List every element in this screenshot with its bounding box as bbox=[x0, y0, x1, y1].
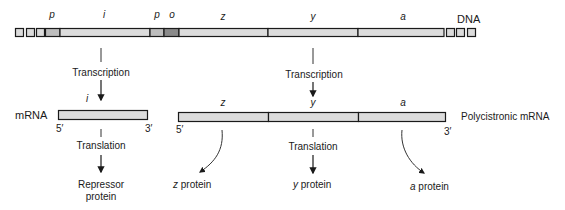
dna-flank-right bbox=[447, 29, 476, 37]
y-protein-suffix: protein bbox=[298, 179, 331, 190]
dna-segment-p2 bbox=[150, 29, 164, 37]
dna-label-i: i bbox=[103, 10, 105, 20]
poly-gene-label-y: y bbox=[311, 98, 316, 108]
polycistronic-mrna-label: Polycistronic mRNA bbox=[461, 112, 549, 122]
poly-3prime: 3′ bbox=[444, 127, 451, 137]
translation-label-left: Translation bbox=[76, 141, 125, 151]
a-protein-suffix: protein bbox=[416, 181, 449, 192]
a-protein-label: a protein bbox=[410, 182, 449, 192]
dna-label-a: a bbox=[400, 12, 406, 22]
z-protein-suffix: protein bbox=[178, 179, 211, 190]
poly-gene-label-a: a bbox=[400, 98, 406, 108]
mrna-left-5prime: 5′ bbox=[56, 124, 63, 134]
dna-bar bbox=[46, 29, 445, 37]
transcription-label-right: Transcription bbox=[285, 70, 342, 80]
mrna-left-3prime: 3′ bbox=[145, 124, 152, 134]
dna-segment-o bbox=[164, 29, 179, 37]
dna-segment-z bbox=[179, 29, 268, 37]
dna-flank-left bbox=[16, 29, 45, 37]
dna-segment-p bbox=[46, 29, 61, 37]
mrna-i-bar bbox=[59, 111, 148, 120]
poly-gene-label-z: z bbox=[221, 98, 226, 108]
polycistronic-mrna-bar bbox=[179, 113, 446, 122]
translation-label-right: Translation bbox=[288, 142, 337, 152]
dna-label-z: z bbox=[221, 12, 226, 22]
dna-label-p2: p bbox=[154, 10, 160, 20]
poly-5prime: 5′ bbox=[176, 125, 183, 135]
z-protein-arrow bbox=[200, 130, 222, 172]
mrna-side-label: mRNA bbox=[15, 110, 47, 121]
dna-segment-i bbox=[60, 29, 150, 37]
transcription-label-left: Transcription bbox=[72, 68, 129, 78]
a-protein-arrow bbox=[402, 130, 424, 173]
dna-label-o: o bbox=[169, 10, 175, 20]
dna-label: DNA bbox=[457, 14, 480, 25]
mrna-gene-label-i: i bbox=[86, 94, 88, 104]
dna-segment-y bbox=[268, 29, 358, 37]
repressor-protein-label-line1: Repressor bbox=[78, 180, 124, 190]
dna-segment-a bbox=[358, 29, 444, 37]
y-protein-label: y protein bbox=[293, 180, 331, 190]
dna-label-y: y bbox=[311, 12, 316, 22]
z-protein-label: z protein bbox=[173, 180, 211, 190]
repressor-protein-label-line2: protein bbox=[86, 192, 117, 202]
dna-label-p: p bbox=[49, 10, 55, 20]
